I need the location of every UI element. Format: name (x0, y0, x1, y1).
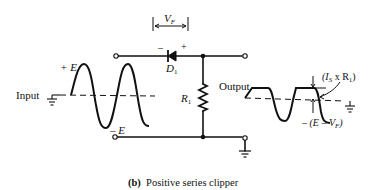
vf-label-sub: F (171, 18, 175, 26)
input-label: Input (16, 90, 39, 101)
diode-triangle (168, 51, 176, 61)
caption-text: Positive series clipper (146, 177, 238, 188)
diode-label-main: D (166, 62, 174, 74)
vf-label-main: V (164, 12, 171, 24)
resistor-label: R1 (181, 93, 191, 106)
diode-plus-label: + (181, 42, 187, 52)
vf-label: VF (164, 13, 175, 26)
diode-d1 (168, 50, 176, 62)
ground-icon-output-waveform (345, 101, 355, 112)
caption-tag: (b) (128, 177, 141, 188)
output-terminal-bottom[interactable] (243, 136, 247, 140)
resistor-label-sub: 1 (188, 98, 192, 106)
diode-label-sub: 1 (174, 68, 178, 76)
diode-label: D1 (166, 63, 177, 76)
output-label: Output (219, 81, 250, 92)
input-baseline (60, 95, 155, 96)
ground-icon-output (239, 151, 251, 157)
e-minus-vf-close: ) (339, 117, 342, 128)
plus-e-label: + E (60, 62, 77, 73)
input-terminal-top[interactable] (114, 54, 118, 58)
junction-top (201, 54, 206, 59)
figure-caption: (b) Positive series clipper (128, 178, 238, 189)
resistor-label-main: R (181, 92, 188, 104)
output-terminal-top[interactable] (243, 54, 247, 58)
diode-minus-label: – (158, 43, 163, 53)
junction-bottom (201, 135, 206, 140)
minus-e-label: – E (110, 125, 125, 136)
e-minus-vf-prefix: – (E – V (302, 117, 335, 128)
is-r1-label: (IS x R1) (322, 72, 356, 84)
is-r1-mid: x R (332, 71, 349, 82)
is-r1-open: (I (322, 71, 329, 82)
circuit-diagram (0, 0, 384, 190)
ground-icon-input (47, 95, 60, 105)
e-minus-vf-label: – (E – VF) (302, 118, 343, 130)
resistor-zigzag (199, 84, 207, 111)
output-baseline (245, 98, 345, 101)
is-r1-close: ) (352, 71, 355, 82)
